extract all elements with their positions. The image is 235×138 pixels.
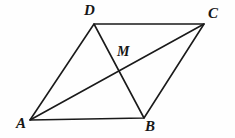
vertex-label-m: M xyxy=(117,45,129,59)
diagonal-ac-line xyxy=(30,24,204,120)
vertex-label-c: C xyxy=(208,6,218,21)
parallelogram-diagram xyxy=(0,0,235,138)
vertex-label-a: A xyxy=(16,116,26,131)
vertex-label-b: B xyxy=(145,119,155,134)
geometry-figure: A B C D M xyxy=(0,0,235,138)
vertex-label-d: D xyxy=(84,3,95,18)
diagonal-db-line xyxy=(94,24,144,118)
